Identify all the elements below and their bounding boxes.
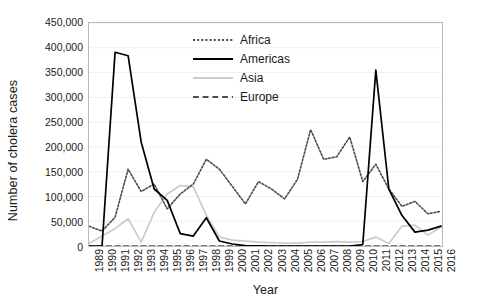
x-axis-tick-label: 1992 — [132, 249, 144, 272]
x-axis-tick-label: 2011 — [380, 249, 392, 272]
legend-label: Asia — [234, 71, 263, 85]
x-axis-tick-label: 1991 — [119, 249, 131, 272]
legend-label: Americas — [234, 52, 290, 66]
legend-swatch-americas-icon — [192, 53, 234, 65]
y-axis-tick-labels: 050,000100,000150,000200,000250,000300,0… — [26, 14, 86, 254]
x-axis-tick-label: 1995 — [171, 249, 183, 272]
y-axis-tick-label: 450,000 — [45, 16, 83, 28]
x-axis-tick-label: 2009 — [354, 249, 366, 272]
x-axis-tick-label: 2013 — [406, 249, 418, 272]
x-axis-tick-label: 2004 — [289, 249, 301, 272]
chart-legend: AfricaAmericasAsiaEurope — [192, 30, 320, 106]
y-axis-title: Number of cholera cases — [0, 0, 26, 301]
y-axis-tick-label: 50,000 — [51, 216, 83, 228]
legend-item-americas: Americas — [192, 49, 320, 68]
x-axis-tick-label: 2014 — [419, 249, 431, 272]
x-axis-tick-label: 2016 — [445, 249, 457, 272]
x-axis-tick-label: 1993 — [145, 249, 157, 272]
x-axis-tick-label: 1994 — [158, 249, 170, 272]
x-axis-tick-label: 1997 — [197, 249, 209, 272]
x-axis-tick-label: 2008 — [341, 249, 353, 272]
y-axis-tick-label: 250,000 — [45, 116, 83, 128]
x-axis-tick-label: 2003 — [276, 249, 288, 272]
x-axis-tick-label: 2002 — [262, 249, 274, 272]
y-axis-tick-label: 300,000 — [45, 91, 83, 103]
legend-item-africa: Africa — [192, 30, 320, 49]
y-axis-tick-label: 400,000 — [45, 41, 83, 53]
legend-label: Europe — [234, 90, 279, 104]
x-axis-tick-label: 1998 — [210, 249, 222, 272]
y-axis-tick-label: 200,000 — [45, 141, 83, 153]
legend-swatch-europe-icon — [192, 91, 234, 103]
x-axis-tick-label: 2015 — [432, 249, 444, 272]
x-axis-tick-label: 1996 — [184, 249, 196, 272]
y-axis-tick-label: 100,000 — [45, 191, 83, 203]
x-axis-tick-label: 2001 — [249, 249, 261, 272]
x-axis-tick-label: 2012 — [393, 249, 405, 272]
x-axis-tick-label: 2006 — [315, 249, 327, 272]
legend-item-asia: Asia — [192, 68, 320, 87]
x-axis-tick-label: 1990 — [106, 249, 118, 272]
series-line-asia — [89, 186, 441, 244]
y-axis-tick-label: 150,000 — [45, 166, 83, 178]
x-axis-tick-label: 2000 — [236, 249, 248, 272]
x-axis-tick-label: 1999 — [223, 249, 235, 272]
x-axis-tick-label: 2005 — [302, 249, 314, 272]
cholera-cases-line-chart: Number of cholera cases 050,000100,00015… — [0, 0, 478, 301]
legend-item-europe: Europe — [192, 87, 320, 106]
legend-swatch-asia-icon — [192, 72, 234, 84]
x-axis-tick-label: 2007 — [328, 249, 340, 272]
legend-swatch-africa-icon — [192, 34, 234, 46]
x-axis-tick-label: 1989 — [93, 249, 105, 272]
y-axis-tick-label: 0 — [77, 241, 83, 253]
y-axis-tick-label: 350,000 — [45, 66, 83, 78]
x-axis-tick-label: 2010 — [367, 249, 379, 272]
legend-label: Africa — [234, 33, 271, 47]
x-axis-title: Year — [88, 283, 443, 297]
